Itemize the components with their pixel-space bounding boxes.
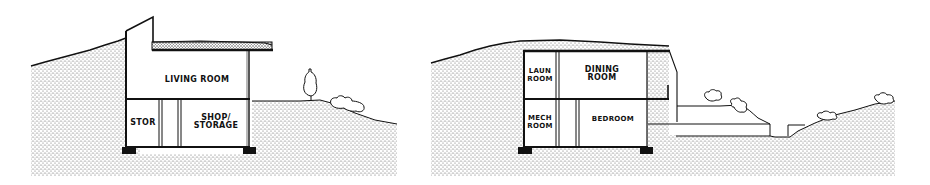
shrub-icon [875, 93, 894, 104]
room-label-bedroom: BEDROOM [582, 115, 644, 123]
tree-icon [304, 69, 317, 101]
room-label-shop-storage: SHOP/ STORAGE [186, 114, 246, 130]
left-section [31, 17, 397, 176]
footing-left [122, 147, 136, 154]
right-earth-berm [431, 41, 895, 176]
room-label-line: LAUN [525, 67, 555, 75]
footing-right [243, 147, 256, 154]
room-label-mechanical-room: MECH ROOM [525, 114, 555, 130]
room-label-line: ROOM [525, 75, 555, 83]
sunspace-glazing [669, 50, 677, 122]
room-label-line: MECH [525, 114, 555, 122]
shrub-icon [705, 90, 722, 101]
right-section [431, 40, 895, 176]
shrub-icon [817, 111, 836, 120]
room-label-line: STORAGE [186, 122, 246, 130]
room-label-dining-room: DINING ROOM [572, 66, 632, 82]
room-label-storage: STOR [128, 119, 158, 127]
upper-terrace [677, 105, 740, 106]
clerestory-roof [126, 17, 153, 44]
footing-right [640, 147, 653, 154]
footing-left [518, 147, 532, 154]
room-label-line: ROOM [525, 122, 555, 130]
section-drawing [0, 0, 930, 185]
room-label-living-room: LIVING ROOM [152, 76, 242, 84]
shrub-icon [731, 98, 747, 112]
room-label-line: ROOM [572, 74, 632, 82]
room-label-laundry-room: LAUN ROOM [525, 67, 555, 83]
